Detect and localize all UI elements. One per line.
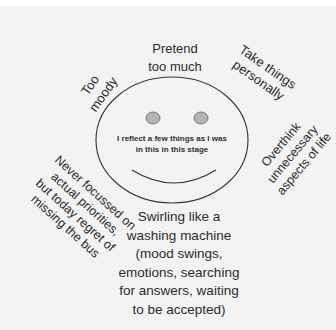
label-line: washing machine [114, 227, 244, 246]
label-line: (mood swings, [114, 245, 244, 264]
label-line: for answers, waiting [114, 282, 244, 301]
center-caption: I reflect a few things as I was in this … [112, 133, 232, 155]
right-eye-icon [194, 112, 208, 124]
label-line: Swirling like a [114, 208, 244, 227]
label-line: emotions, searching [114, 264, 244, 283]
center-caption-line: I reflect a few things as I was [112, 133, 232, 144]
label-line: to be accepted) [114, 301, 244, 320]
center-caption-line: in this in this stage [112, 144, 232, 155]
label-line: Pretend [140, 40, 210, 58]
left-eye-icon [146, 112, 160, 124]
smile-mouth-icon [132, 170, 216, 183]
label-swirling: Swirling like a washing machine (mood sw… [114, 208, 244, 319]
label-pretend-too-much: Pretend too much [140, 40, 210, 76]
label-line: too much [140, 58, 210, 76]
